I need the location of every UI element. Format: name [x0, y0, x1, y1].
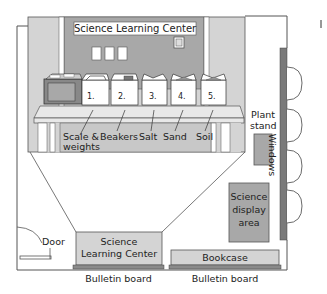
bulletin-board-right: [169, 265, 281, 269]
classroom-diagram: Science Learning Center 1. 2. 3. 4. 5. S…: [0, 0, 327, 294]
paper-3: [118, 47, 127, 60]
container-number-1: 1.: [87, 92, 95, 102]
container-number-4: 4.: [178, 92, 186, 102]
window-1: [287, 67, 302, 100]
bulletin-board-left: [73, 265, 164, 269]
windows-label: Windows: [267, 125, 277, 185]
label-beakers: Beakers: [100, 132, 138, 142]
plant-stand-label-1: Plant: [250, 110, 276, 120]
container-number-3: 3.: [149, 92, 157, 102]
label-salt: Salt: [139, 132, 157, 142]
window-4: [287, 190, 302, 223]
bookcase-label: Bookcase: [171, 253, 279, 263]
learning-center-label-1: Science: [76, 237, 162, 247]
container-number-5: 5.: [208, 92, 216, 102]
scale-weights-icon: [44, 74, 82, 104]
label-soil: Soil: [196, 132, 213, 142]
window-2: [287, 109, 302, 142]
window-wall: [280, 48, 302, 240]
display-label-1: Science: [229, 192, 269, 202]
learning-center-perspective: [28, 17, 245, 232]
container-number-2: 2.: [118, 92, 126, 102]
door-label: Door: [42, 237, 65, 247]
learning-center-label-2: Learning Center: [76, 249, 162, 259]
display-label-2: display: [229, 205, 269, 215]
sign-text: Science Learning Center: [74, 24, 196, 34]
display-label-3: area: [229, 218, 269, 228]
paper-2: [105, 47, 114, 60]
paper-1: [92, 47, 101, 60]
bulletin-board-left-label: Bulletin board: [73, 274, 164, 284]
label-weights: weights: [63, 142, 100, 152]
label-sand: Sand: [163, 132, 187, 142]
window-3: [287, 150, 302, 183]
bulletin-board-right-label: Bulletin board: [169, 274, 281, 284]
